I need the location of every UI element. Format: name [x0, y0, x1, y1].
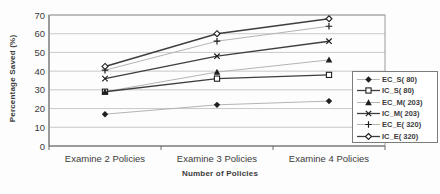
legend-item-label: EC_S( 80) [382, 75, 417, 84]
y-tick-label: 30 [23, 84, 45, 95]
open-diamond-marker-icon [326, 16, 332, 22]
legend-item-ic-m-203: IC_M( 203) [355, 108, 437, 119]
legend-item-ec-s-80: EC_S( 80) [355, 74, 437, 85]
open-diamond-marker-icon [102, 63, 108, 69]
legend-item-ec-m-203: EC_M( 203) [355, 97, 437, 108]
open-square-marker-icon [214, 76, 219, 81]
y-tick-label: 50 [23, 47, 45, 58]
open-square-marker-icon [326, 72, 331, 77]
open-square-marker-icon [366, 88, 371, 93]
x-category-label: Examine 2 Policies [45, 153, 165, 164]
plus-marker-icon [355, 120, 382, 129]
open-diamond-marker-icon [366, 133, 372, 139]
legend-item-label: EC_M( 203) [382, 98, 422, 107]
y-tick-label: 60 [23, 28, 45, 39]
y-tick-label: 10 [23, 122, 45, 133]
legend-item-ec-e-320: EC_E( 320) [355, 119, 437, 130]
filled-diamond-marker-icon [214, 102, 220, 108]
legend-item-ic-e-320: IC_E( 320) [355, 131, 437, 142]
filled-diamond-marker-icon [326, 98, 332, 104]
x-category-label: Examine 4 Policies [269, 153, 389, 164]
plus-marker-icon [326, 23, 333, 30]
y-axis-title: Percentage Saved (%) [8, 34, 17, 124]
legend-item-label: IC_S( 80) [382, 86, 414, 95]
y-tick-label: 20 [23, 103, 45, 114]
plus-marker-icon [365, 122, 372, 129]
filled-diamond-marker-icon [102, 111, 108, 117]
x-category-label: Examine 3 Policies [157, 153, 277, 164]
legend-item-ic-s-80: IC_S( 80) [355, 85, 437, 96]
legend-item-label: IC_E( 320) [382, 132, 418, 141]
open-diamond-icon [355, 132, 382, 141]
legend-item-label: IC_M( 203) [382, 109, 420, 118]
legend-item-label: EC_E( 320) [382, 120, 421, 129]
filled-triangle-marker-icon [326, 57, 333, 63]
filled-diamond-marker-icon [365, 76, 371, 82]
y-tick-label: 40 [23, 66, 45, 77]
y-tick-label: 70 [23, 10, 45, 21]
plus-marker-icon [214, 38, 221, 45]
legend: EC_S( 80) IC_S( 80) EC_M( 203) IC_M( 203… [352, 71, 438, 143]
open-diamond-marker-icon [214, 31, 220, 37]
filled-diamond-icon [355, 75, 382, 84]
chart-figure: Percentage Saved (%) 010203040506070 Exa… [0, 0, 440, 194]
open-square-icon [355, 86, 382, 95]
filled-triangle-icon [355, 98, 382, 107]
x-axis-title: Number of Policies [160, 169, 280, 178]
y-tick-label: 0 [23, 141, 45, 152]
x-marker-icon [355, 109, 382, 118]
